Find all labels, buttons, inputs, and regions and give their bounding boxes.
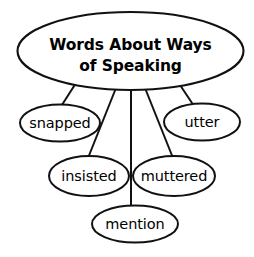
node-main[interactable]: Words About Ways of Speaking (18, 12, 244, 90)
node-utter[interactable]: utter (164, 104, 240, 141)
node-muttered[interactable]: muttered (133, 156, 215, 196)
node-utter-label: utter (185, 114, 220, 130)
word-web-diagram: Words About Ways of Speaking snapped utt… (0, 0, 254, 257)
node-insisted[interactable]: insisted (49, 156, 129, 196)
node-snapped[interactable]: snapped (20, 105, 100, 142)
word-web-canvas: Words About Ways of Speaking snapped utt… (0, 0, 254, 257)
node-snapped-label: snapped (29, 115, 90, 131)
node-muttered-label: muttered (141, 168, 208, 184)
node-mention-label: mention (105, 216, 164, 232)
node-main-label: Words About Ways (49, 36, 211, 54)
node-main-label-line2: of Speaking (79, 57, 182, 75)
node-mention[interactable]: mention (92, 206, 178, 243)
node-insisted-label: insisted (61, 168, 116, 184)
